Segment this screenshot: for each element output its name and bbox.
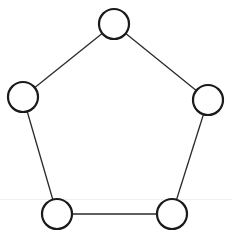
node-top: [99, 9, 129, 39]
edge-top-left: [23, 24, 114, 97]
edge-right-bottom-right: [172, 100, 208, 214]
edge-layer: [23, 24, 208, 214]
edge-top-right: [114, 24, 208, 100]
node-right: [193, 85, 223, 115]
node-layer: [8, 9, 223, 229]
graph-diagram: [0, 0, 232, 242]
node-bottom-left: [42, 199, 72, 229]
node-bottom-right: [157, 199, 187, 229]
edge-left-bottom-left: [23, 97, 57, 214]
node-left: [8, 82, 38, 112]
